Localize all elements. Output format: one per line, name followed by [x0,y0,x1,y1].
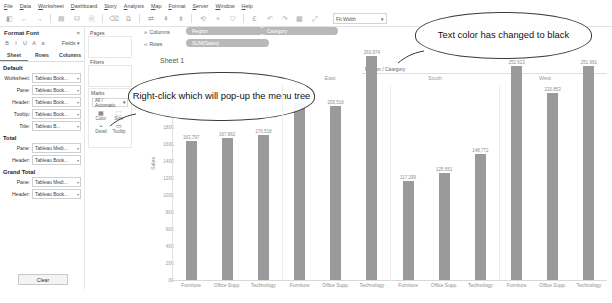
tableau-logo-icon[interactable]: ◧ [5,14,14,23]
menu-item-story[interactable]: Story [104,3,117,9]
columns-label: ⊞ Columns [144,29,170,35]
filters-shelf[interactable] [88,65,132,87]
font-tool-1[interactable]: I [13,40,19,46]
duplicate-icon[interactable]: ⧉ [124,14,133,23]
highlight-icon[interactable]: ⌖ [213,14,222,23]
menu-item-file[interactable]: File [4,3,13,9]
font-tool-4[interactable]: ≡ [40,40,46,46]
select-value: Tableau B... [35,124,60,129]
toolbar-divider [191,14,192,23]
bar[interactable] [222,138,233,280]
bar[interactable] [403,181,414,280]
font-tool-2[interactable]: U [22,40,28,46]
sheet-title[interactable]: Sheet 1 [160,57,184,64]
bar[interactable] [186,141,197,280]
bar[interactable] [366,56,377,280]
font-select-header[interactable]: Tableau Book...▾ [32,155,81,165]
chevron-down-icon: ▾ [77,88,79,93]
format-panel-header: Format Font × [0,27,84,38]
fit-icon[interactable]: ⤢ [310,14,319,23]
font-select-pane[interactable]: Tableau Book...▾ [32,85,81,95]
menu-item-window[interactable]: Window [215,3,234,9]
swap-axes-icon[interactable]: ⇄ [146,14,155,23]
menu-item-help[interactable]: Help [242,3,253,9]
presentation-icon[interactable]: £ [250,14,259,23]
marks-type-dropdown[interactable]: All / Automatic ▾ [92,98,128,107]
fit-dropdown[interactable]: Fit Width ▾ [333,13,387,24]
bar[interactable] [475,154,486,280]
bar-value-label: 148,772 [466,148,494,153]
pill-region[interactable]: Region [186,27,263,35]
font-select-header[interactable]: Tableau Book...▾ [32,189,81,199]
fields-dropdown[interactable]: Fields ▾ [62,40,80,46]
tab-sheet[interactable]: Sheet [0,50,28,61]
bar[interactable] [439,173,450,280]
labels-icon[interactable]: ⛉ [228,14,237,23]
pill-category[interactable]: Category [261,27,338,35]
select-value: Tableau Book... [35,112,68,117]
font-tool-3[interactable]: A [31,40,37,46]
bar[interactable] [258,135,269,280]
clear-button[interactable]: Clear [18,274,68,285]
font-select-tooltip[interactable]: Tableau Book...▾ [32,109,81,119]
pill-sum-sales[interactable]: SUM(Sales) [186,39,269,47]
rows-icon: ⊟ [144,42,148,47]
tab-rows[interactable]: Rows [28,50,56,61]
menu-item-format[interactable]: Format [168,3,185,9]
x-tick-label: Furniture [174,283,208,288]
close-icon[interactable]: × [76,30,80,36]
row-label: Tooltip: [14,111,30,117]
chevron-down-icon: ▾ [381,16,384,22]
bar[interactable] [547,93,558,280]
font-select-pane[interactable]: Tableau Medi...▾ [32,143,81,153]
forward-arrow-icon[interactable]: → [35,14,44,23]
back-arrow-icon[interactable]: ← [20,14,29,23]
x-tick-label: Office Supp. [210,283,244,288]
tab-columns[interactable]: Columns [56,50,84,61]
bar[interactable] [511,66,522,280]
marks-button-detail[interactable]: ⌁Detail [92,123,110,134]
new-worksheet-icon[interactable]: ⎘ [87,14,96,23]
bar-value-label: 252,613 [503,60,531,65]
bar[interactable] [583,66,594,280]
redo-icon[interactable]: ↷ [280,14,289,23]
bar-value-label: 205,516 [322,100,350,105]
format-row: Tooltip:Tableau Book...▾ [0,108,84,120]
menu-item-dashboard[interactable]: Dashboard [71,3,97,9]
toolbar-divider [102,14,103,23]
font-tool-row: BIUA≡Fields ▾ [0,38,84,48]
menu-item-map[interactable]: Map [151,3,162,9]
menu-item-analysis[interactable]: Analysis [124,3,144,9]
menu-item-data[interactable]: Data [20,3,31,9]
format-scope-tabs: SheetRowsColumns [0,50,84,62]
format-row: Worksheet:Tableau Book...▾ [0,72,84,84]
chevron-down-icon: ▾ [77,192,79,197]
menu-item-worksheet[interactable]: Worksheet [38,3,64,9]
clear-sheet-icon[interactable]: ⌫ [109,14,118,23]
save-icon[interactable]: ▤ [57,14,66,23]
font-select-worksheet[interactable]: Tableau Book...▾ [32,73,81,83]
bar[interactable] [330,106,341,280]
font-select-title[interactable]: Tableau B...▾ [32,121,81,131]
pages-shelf[interactable] [88,36,132,58]
group-icon[interactable]: ⟲ [198,14,207,23]
marks-button-color[interactable]: ▦Color [92,110,110,121]
menu-bar: FileDataWorksheetDashboardStoryAnalysisM… [0,0,611,11]
font-select-pane[interactable]: Tableau Medi...▾ [32,177,81,187]
select-value: Tableau Book... [35,76,68,81]
font-select-header[interactable]: Tableau Book...▾ [32,97,81,107]
row-label: Worksheet: [4,75,30,81]
new-datasource-icon[interactable]: ⛁ [72,14,81,23]
x-tick-label: Technology [246,283,280,288]
font-tool-0[interactable]: B [4,40,10,46]
bar-value-label: 220,853 [539,87,567,92]
bar[interactable] [294,103,305,280]
sort-ascending-icon[interactable]: ⇞ [161,14,170,23]
undo-icon[interactable]: ↶ [265,14,274,23]
region-header-south: South [400,75,470,81]
sort-descending-icon[interactable]: ⇟ [176,14,185,23]
menu-item-server[interactable]: Server [192,3,208,9]
section-heading-default: Default [0,62,84,72]
row-label: Pane: [17,179,30,185]
fix-axes-icon[interactable]: ▩ [295,14,304,23]
